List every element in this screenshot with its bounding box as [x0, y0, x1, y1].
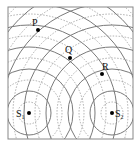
- point-p-dot: [36, 28, 40, 32]
- interference-diagram: S1 S2 P Q R: [0, 0, 139, 149]
- source-s2-dot: [110, 111, 114, 115]
- source-s1-dot: [27, 111, 31, 115]
- svg-text:P: P: [32, 17, 38, 28]
- point-q-dot: [68, 56, 72, 60]
- point-r-dot: [100, 72, 104, 76]
- svg-text:R: R: [102, 61, 109, 72]
- svg-text:Q: Q: [65, 44, 73, 55]
